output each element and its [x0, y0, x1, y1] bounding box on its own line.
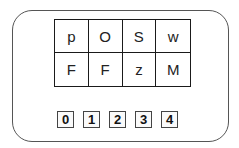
- grid-cell: w: [156, 20, 190, 53]
- grid-cell: F: [55, 53, 89, 86]
- answer-button-4[interactable]: 4: [161, 111, 178, 128]
- answer-button-2[interactable]: 2: [109, 111, 126, 128]
- grid-cell: F: [89, 53, 123, 86]
- letter-grid: p O S w F F z M: [54, 19, 191, 87]
- answer-button-row: 0 1 2 3 4: [57, 111, 178, 129]
- grid-cell: S: [123, 20, 157, 53]
- answer-button-0[interactable]: 0: [57, 111, 74, 128]
- grid-cell: M: [156, 53, 190, 86]
- grid-cell: p: [55, 20, 89, 53]
- grid-cell: O: [89, 20, 123, 53]
- answer-button-3[interactable]: 3: [135, 111, 152, 128]
- answer-button-1[interactable]: 1: [83, 111, 100, 128]
- grid-cell: z: [123, 53, 157, 86]
